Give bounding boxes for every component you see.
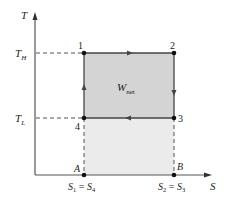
ts-diagram: T S TH TL 1 2 3 4 A B Wnet S1 = S4 S2 = … [0,0,228,200]
net-work-area [84,53,174,118]
point-b [172,173,177,178]
point-a [82,173,87,178]
tl-label: TL [15,112,25,127]
state-point-1 [82,51,87,56]
s1-eq-s4-label: S1 = S4 [68,181,96,193]
point-a-label: A [73,163,81,174]
heat-rejected-area [84,118,174,175]
state-label-3: 3 [178,113,183,124]
th-label: TH [15,47,27,62]
state-label-1: 1 [78,40,83,51]
state-label-4: 4 [75,121,80,132]
state-label-2: 2 [170,40,175,51]
x-axis-label: S [210,180,216,192]
y-axis-arrow-icon [33,12,38,20]
state-point-3 [172,116,177,121]
x-axis-arrow-icon [204,173,212,178]
s2-eq-s3-label: S2 = S3 [158,181,185,193]
point-b-label: B [177,161,183,172]
y-axis-label: T [21,9,28,21]
state-point-4 [82,116,87,121]
state-point-2 [172,51,177,56]
